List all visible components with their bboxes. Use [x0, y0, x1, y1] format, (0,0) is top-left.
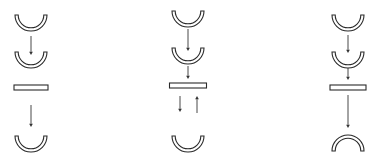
diagram-column-1 [14, 15, 48, 152]
arrow-up-icon [195, 96, 199, 113]
arrow-down-icon [186, 66, 190, 79]
arrow-head-icon [195, 96, 199, 99]
arrow-down-icon [346, 95, 350, 128]
arrow-head-icon [186, 76, 190, 79]
arrow-head-icon [29, 124, 33, 127]
flat-plate-icon [330, 85, 366, 90]
half-shell-cup-icon [172, 11, 204, 27]
half-shell-cup-icon [332, 15, 364, 31]
half-shell-cup-icon [172, 136, 204, 152]
arrow-head-icon [346, 50, 350, 53]
half-shell-cup-icon [332, 52, 364, 68]
arrow-down-icon [346, 68, 350, 80]
half-shell-cup-icon [15, 136, 47, 152]
diagram-canvas [0, 0, 379, 163]
arrow-down-icon [346, 35, 350, 53]
flat-plate-icon [170, 83, 207, 88]
arrow-head-icon [186, 48, 190, 51]
diagram-column-2 [170, 11, 207, 152]
flat-plate-icon [14, 85, 48, 90]
half-shell-dome-icon [332, 135, 364, 151]
arrow-down-icon [178, 96, 182, 112]
arrow-head-icon [178, 109, 182, 112]
arrow-head-icon [29, 52, 33, 55]
arrow-head-icon [346, 77, 350, 80]
arrow-down-icon [29, 36, 33, 55]
arrow-down-icon [186, 29, 190, 51]
half-shell-cup-icon [15, 15, 47, 31]
diagram-column-3 [330, 15, 366, 151]
arrow-head-icon [346, 125, 350, 128]
arrow-down-icon [29, 105, 33, 127]
